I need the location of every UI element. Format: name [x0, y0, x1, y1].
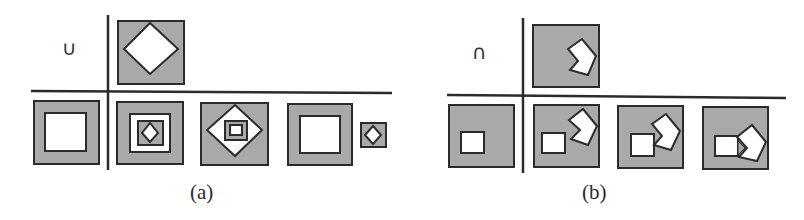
- panel-a-result-2: [201, 103, 268, 165]
- caption-b: (b): [582, 180, 607, 205]
- panel-a-row-square: [34, 101, 99, 164]
- panel-b-result-3: [703, 107, 768, 169]
- panel-b-row-square: [449, 105, 514, 167]
- panel-b-header-square: [533, 25, 599, 87]
- figure-canvas: [0, 0, 804, 220]
- panel-a-header-square: [118, 21, 184, 84]
- panel-a-horizontal-axis: [31, 91, 392, 93]
- panel-a-result-3: [288, 104, 352, 165]
- union-operator: ∪: [62, 36, 77, 60]
- panel-a-result-1: [117, 102, 183, 164]
- panel-b-result-2: [618, 106, 683, 168]
- panel-b: [447, 18, 786, 173]
- panel-a: [31, 15, 392, 170]
- intersection-operator: ∩: [472, 40, 487, 64]
- panel-b-result-1: [534, 105, 599, 167]
- caption-a: (a): [190, 180, 213, 205]
- panel-a-result-3-small: [361, 123, 386, 147]
- panel-b-horizontal-axis: [447, 95, 786, 98]
